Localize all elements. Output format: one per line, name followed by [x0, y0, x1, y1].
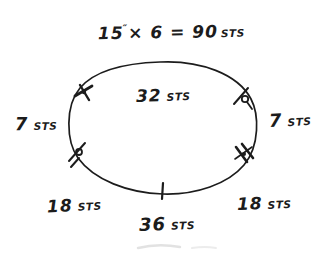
formula-expression: × 6 = 90 [128, 21, 218, 43]
stitch-unit: STS [268, 198, 292, 211]
stitch-label-bottom-right: 18STS [237, 194, 292, 213]
stitch-value: 32 [136, 85, 162, 106]
stitch-value: 18 [237, 193, 263, 214]
formula-unit: STS [221, 27, 245, 39]
stitch-unit: STS [77, 200, 101, 213]
faint-artifact [138, 245, 216, 248]
stitch-value: 7 [268, 109, 283, 131]
stitch-unit: STS [171, 219, 195, 232]
stitch-unit: STS [33, 120, 57, 132]
formula-measurement: 15 [98, 23, 124, 43]
stitch-unit: STS [287, 115, 311, 128]
stitch-unit: STS [167, 90, 191, 103]
stitch-label-left: 7STS [15, 115, 58, 134]
tick-lower-right-icon [235, 144, 253, 162]
stitch-label-right: 7STS [269, 110, 312, 130]
stitch-label-bottom-center: 36STS [139, 214, 195, 234]
inch-mark: ″ [122, 23, 128, 34]
stitch-label-bottom-left: 18STS [47, 196, 102, 216]
stitch-label-inside-top: 32STS [136, 86, 191, 105]
stitch-value: 36 [139, 213, 167, 235]
formula-label: 15″× 6 = 90STS [98, 23, 245, 43]
tick-bottom-center-icon [162, 183, 163, 199]
circle-outline [69, 62, 257, 194]
sketch-canvas: 15″× 6 = 90STS 32STS 7STS 7STS 18STS 18S… [0, 0, 330, 253]
stitch-value: 18 [46, 195, 73, 216]
stitch-value: 7 [15, 113, 29, 134]
tick-upper-right-icon [234, 88, 252, 109]
